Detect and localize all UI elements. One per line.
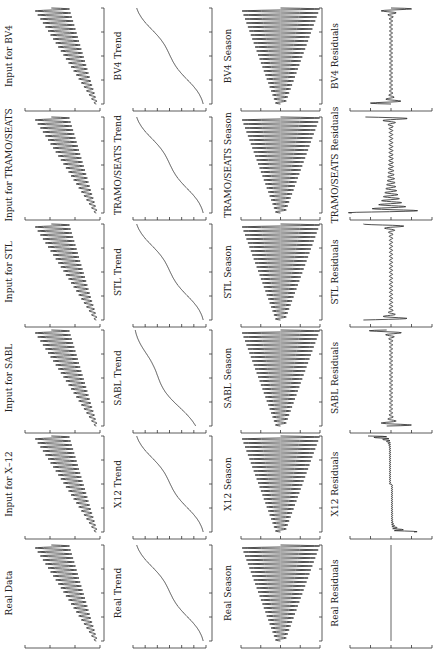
panel-trend: X12 Trend [113, 436, 212, 539]
panel-residuals: STL Residuals [330, 224, 432, 327]
season-series-line [242, 436, 320, 532]
residuals-series-line [363, 224, 407, 320]
trend-series-line [135, 330, 196, 426]
panel-title: Real Trend [113, 568, 123, 619]
decomposition-figure: Input for BV4BV4 TrendBV4 SeasonBV4 Resi… [0, 0, 441, 656]
season-series-line [242, 545, 320, 641]
residuals-series-line [348, 117, 417, 213]
input-series-line [35, 330, 97, 426]
panel-input: Real Data [4, 545, 104, 648]
trend-series-line [137, 224, 204, 320]
panel-title: X12 Season [223, 457, 233, 511]
panel-residuals: X12 Residuals [330, 436, 432, 539]
panel-title: Real Residuals [330, 559, 340, 627]
residuals-series-line [370, 8, 411, 104]
panel-trend: STL Trend [113, 224, 212, 327]
panel-trend: BV4 Trend [113, 8, 212, 111]
residuals-series-line [368, 436, 417, 532]
panel-title: STL Season [223, 245, 233, 299]
season-series-line [242, 224, 320, 320]
panel-title: TRAMO/SEATS Season [223, 112, 233, 218]
panel-row-stl: Input for STLSTL TrendSTL SeasonSTL Resi… [4, 224, 432, 327]
panel-row-bv4: Input for BV4BV4 TrendBV4 SeasonBV4 Resi… [4, 8, 432, 111]
panel-row-tramo-seats: Input for TRAMO/SEATSTRAMO/SEATS TrendTR… [4, 106, 432, 223]
panel-title: TRAMO/SEATS Residuals [330, 106, 340, 223]
panel-title: BV4 Residuals [330, 23, 340, 89]
panel-title: SABL Residuals [330, 342, 340, 415]
input-series-line [35, 545, 97, 641]
panel-input: Input for X–12 [4, 436, 104, 539]
panel-title: BV4 Trend [113, 31, 123, 80]
panel-season: STL Season [223, 224, 322, 327]
trend-series-line [137, 545, 204, 641]
panel-title: Input for SABL [4, 344, 14, 413]
panel-trend: Real Trend [113, 545, 212, 648]
trend-series-line [137, 117, 204, 213]
panel-season: SABL Season [223, 330, 322, 433]
panel-title: Real Data [4, 570, 14, 615]
panel-row-x-12: Input for X–12X12 TrendX12 SeasonX12 Res… [4, 436, 432, 539]
panel-season: TRAMO/SEATS Season [223, 112, 322, 220]
panel-row-sabl: Input for SABLSABL TrendSABL SeasonSABL … [4, 330, 432, 433]
panel-title: Input for X–12 [4, 451, 14, 517]
residuals-series-line [369, 330, 411, 426]
panel-row-real: Real DataReal TrendReal SeasonReal Resid… [4, 545, 432, 648]
season-series-line [242, 330, 320, 426]
panel-title: X12 Residuals [330, 451, 340, 516]
panel-residuals: Real Residuals [330, 545, 432, 648]
season-series-line [242, 8, 320, 104]
panel-input: Input for STL [4, 224, 104, 327]
panel-title: SABL Season [223, 347, 233, 408]
panel-title: X12 Trend [113, 460, 123, 508]
panel-title: SABL Trend [113, 350, 123, 406]
input-series-line [35, 224, 97, 320]
trend-series-line [137, 8, 204, 104]
season-series-line [242, 117, 320, 213]
panel-residuals: SABL Residuals [330, 330, 432, 433]
panel-title: Input for BV4 [4, 25, 14, 87]
panel-residuals: BV4 Residuals [330, 8, 432, 111]
panel-residuals: TRAMO/SEATS Residuals [330, 106, 432, 223]
panel-title: STL Trend [113, 248, 123, 296]
panel-title: Input for TRAMO/SEATS [4, 108, 14, 221]
panel-title: TRAMO/SEATS Trend [113, 115, 123, 215]
input-series-line [35, 436, 97, 532]
panel-input: Input for BV4 [4, 8, 104, 111]
panel-title: STL Residuals [330, 239, 340, 304]
panel-season: Real Season [223, 545, 322, 648]
panel-input: Input for SABL [4, 330, 104, 433]
input-series-line [35, 8, 97, 104]
panel-title: Real Season [223, 565, 233, 621]
panel-trend: SABL Trend [113, 330, 212, 433]
panel-title: BV4 Season [223, 29, 233, 84]
trend-series-line [137, 436, 204, 532]
panel-season: X12 Season [223, 436, 322, 539]
panel-input: Input for TRAMO/SEATS [4, 108, 104, 221]
panel-trend: TRAMO/SEATS Trend [113, 115, 212, 220]
panel-title: Input for STL [4, 241, 14, 302]
input-series-line [35, 117, 97, 213]
panel-season: BV4 Season [223, 8, 322, 111]
